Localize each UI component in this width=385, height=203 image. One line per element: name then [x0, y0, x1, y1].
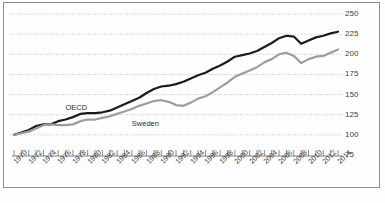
- y-axis-tick-label: 125: [345, 111, 358, 119]
- chart-plot-svg: [0, 0, 385, 203]
- y-axis-tick-label: 200: [345, 50, 358, 58]
- y-axis-tick-label: 100: [345, 131, 358, 139]
- series-line-oecd: [14, 32, 338, 135]
- y-axis-tick-label: 150: [345, 91, 358, 99]
- gridlines-group: [10, 14, 342, 135]
- series-label-sweden: Sweden: [132, 120, 159, 128]
- series-label-oecd: OECD: [66, 104, 88, 112]
- y-axis-tick-label: 250: [345, 10, 358, 18]
- y-axis-tick-label: 175: [345, 70, 358, 78]
- series-group: [14, 32, 338, 135]
- y-axis-tick-label: 225: [345, 30, 358, 38]
- series-line-sweden: [14, 49, 338, 134]
- chart-figure: 75100125150175200225250 1970197219741976…: [0, 0, 385, 203]
